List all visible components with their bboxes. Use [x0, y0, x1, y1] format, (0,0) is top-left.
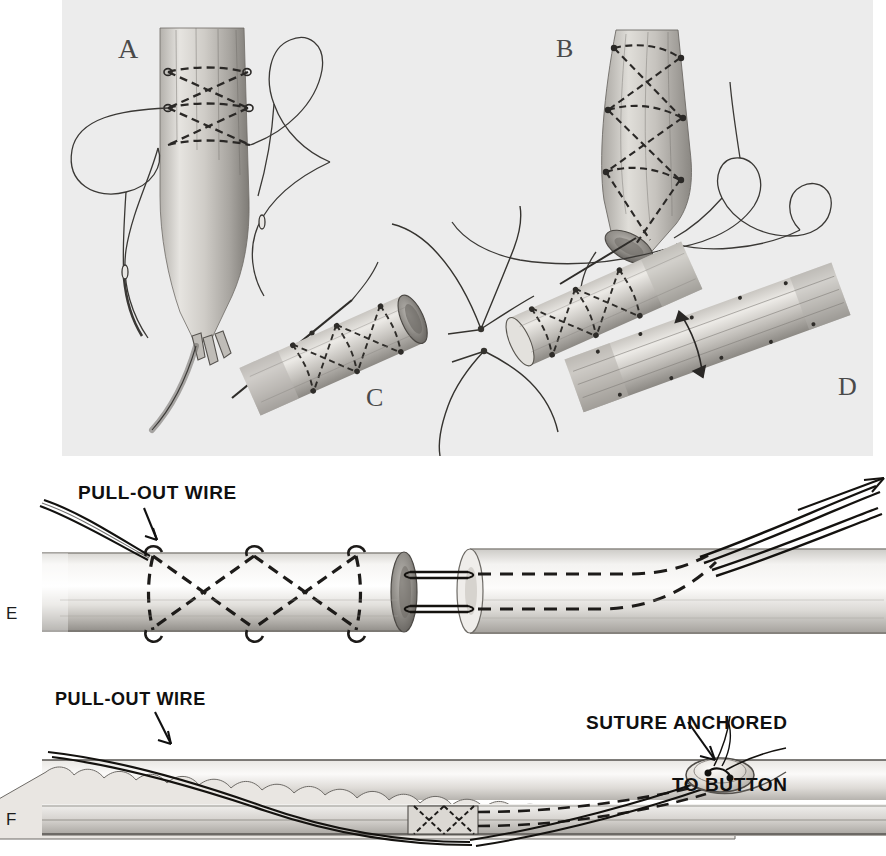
panel-letter-f: F	[6, 810, 16, 830]
callout-line-2: TO BUTTON	[586, 775, 787, 796]
callout-line-1: SUTURE ANCHORED	[586, 713, 787, 734]
panel-letter-e: E	[6, 604, 17, 624]
figure-plate: A B C D E F PULL-OUT WIRE PULL-OUT WIRE …	[0, 0, 886, 856]
callout-pull-out-wire-e: PULL-OUT WIRE	[78, 483, 237, 504]
callout-suture-anchored-to-button: SUTURE ANCHORED TO BUTTON	[586, 672, 787, 836]
callout-pull-out-wire-f: PULL-OUT WIRE	[55, 690, 206, 709]
top-illustration-plate	[62, 0, 873, 456]
panel-letter-d: D	[838, 372, 857, 402]
panel-letter-c: C	[366, 383, 383, 413]
panel-letter-b: B	[556, 34, 573, 64]
panel-letter-a: A	[118, 33, 138, 65]
